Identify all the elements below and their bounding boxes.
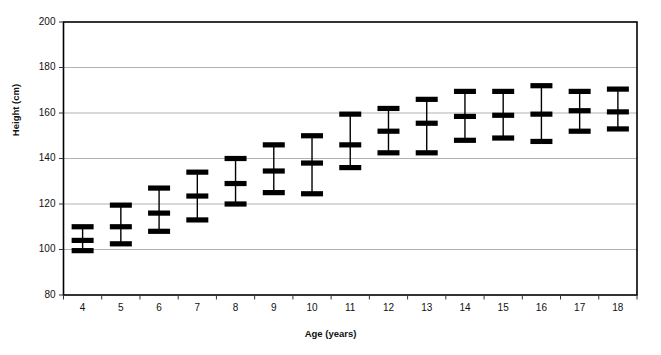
- x-tick-label: 12: [373, 302, 403, 313]
- lower-bar: [492, 135, 514, 140]
- lower-bar: [416, 150, 438, 155]
- median-bar: [301, 160, 323, 165]
- median-bar: [569, 108, 591, 113]
- median-bar: [607, 109, 629, 114]
- lower-bar: [569, 129, 591, 134]
- median-bar: [148, 211, 170, 216]
- lower-bar: [148, 229, 170, 234]
- x-tick-label: 13: [412, 302, 442, 313]
- data-series: [72, 83, 629, 253]
- range-marker-age-18: [607, 87, 629, 132]
- x-tick-label: 17: [565, 302, 595, 313]
- x-tick-label: 18: [603, 302, 633, 313]
- upper-bar: [263, 142, 285, 147]
- lower-bar: [377, 150, 399, 155]
- range-marker-age-15: [492, 89, 514, 141]
- upper-bar: [72, 224, 94, 229]
- range-marker-age-8: [225, 156, 247, 207]
- median-bar: [416, 121, 438, 126]
- median-bar: [72, 238, 94, 243]
- lower-bar: [110, 241, 132, 246]
- y-tick-label: 180: [26, 61, 56, 72]
- x-tick-label: 11: [335, 302, 365, 313]
- upper-bar: [186, 170, 208, 175]
- x-axis-title: Age (years): [0, 328, 661, 339]
- y-axis-title: Height (cm): [10, 60, 21, 160]
- x-tick-label: 8: [221, 302, 251, 313]
- lower-bar: [301, 191, 323, 196]
- y-tick-label: 160: [26, 107, 56, 118]
- median-bar: [530, 112, 552, 117]
- median-bar: [110, 224, 132, 229]
- upper-bar: [492, 89, 514, 94]
- upper-bar: [339, 112, 361, 117]
- range-marker-age-10: [301, 133, 323, 196]
- y-tick-label: 100: [26, 243, 56, 254]
- upper-bar: [607, 87, 629, 92]
- upper-bar: [225, 156, 247, 161]
- upper-bar: [454, 89, 476, 94]
- range-marker-age-17: [569, 89, 591, 134]
- x-tick-label: 14: [450, 302, 480, 313]
- upper-bar: [301, 133, 323, 138]
- range-marker-age-5: [110, 203, 132, 247]
- height-by-age-chart: Height (cm) Age (years) 8010012014016018…: [0, 0, 661, 355]
- upper-bar: [377, 106, 399, 111]
- median-bar: [263, 168, 285, 173]
- x-tick-label: 6: [144, 302, 174, 313]
- median-bar: [225, 181, 247, 186]
- x-tick-label: 15: [488, 302, 518, 313]
- range-marker-age-16: [530, 83, 552, 144]
- plot-canvas: [0, 0, 661, 355]
- range-marker-age-11: [339, 112, 361, 171]
- lower-bar: [607, 126, 629, 131]
- axis-ticks: [59, 22, 637, 300]
- lower-bar: [339, 165, 361, 170]
- upper-bar: [148, 185, 170, 190]
- range-marker-age-6: [148, 185, 170, 233]
- upper-bar: [110, 203, 132, 208]
- range-marker-age-14: [454, 89, 476, 143]
- median-bar: [454, 114, 476, 119]
- range-marker-age-7: [186, 170, 208, 223]
- median-bar: [339, 142, 361, 147]
- y-tick-label: 140: [26, 152, 56, 163]
- y-tick-label: 200: [26, 16, 56, 27]
- lower-bar: [186, 217, 208, 222]
- lower-bar: [263, 190, 285, 195]
- lower-bar: [72, 248, 94, 253]
- upper-bar: [569, 89, 591, 94]
- range-marker-age-4: [72, 224, 94, 253]
- x-tick-label: 5: [106, 302, 136, 313]
- range-marker-age-13: [416, 97, 438, 156]
- x-tick-label: 10: [297, 302, 327, 313]
- median-bar: [186, 193, 208, 198]
- x-tick-label: 4: [68, 302, 98, 313]
- y-tick-label: 80: [26, 289, 56, 300]
- upper-bar: [416, 97, 438, 102]
- median-bar: [377, 129, 399, 134]
- x-tick-label: 9: [259, 302, 289, 313]
- median-bar: [492, 113, 514, 118]
- range-marker-age-9: [263, 142, 285, 195]
- lower-bar: [225, 201, 247, 206]
- x-tick-label: 7: [182, 302, 212, 313]
- x-tick-label: 16: [526, 302, 556, 313]
- lower-bar: [530, 139, 552, 144]
- lower-bar: [454, 138, 476, 143]
- upper-bar: [530, 83, 552, 88]
- y-tick-label: 120: [26, 198, 56, 209]
